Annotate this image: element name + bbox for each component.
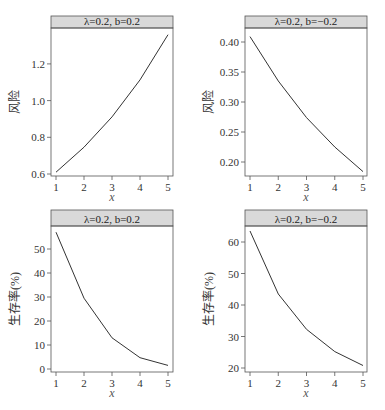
data-line	[56, 232, 168, 365]
panel-title: λ=0.2, b=0.2	[84, 213, 140, 225]
panel-title: λ=0.2, b=0.2	[84, 15, 140, 27]
y-tick-label: 0.35	[220, 66, 240, 78]
y-axis-label: 生存率(%)	[201, 272, 216, 326]
x-tick-label: 4	[137, 377, 143, 389]
y-tick-label: 10	[34, 339, 46, 351]
chart-grid: λ=0.2, b=0.20.60.81.01.212345x风险λ=0.2, b…	[0, 0, 385, 410]
x-tick-label: 2	[276, 377, 282, 389]
y-tick-label: 1.2	[31, 58, 45, 70]
plot-frame	[245, 28, 367, 176]
x-tick-label: 1	[247, 181, 253, 193]
y-tick-label: 0.6	[31, 168, 45, 180]
y-axis-label: 风险	[201, 90, 216, 114]
data-line	[250, 37, 363, 172]
x-tick-label: 5	[165, 377, 171, 389]
plot-frame	[51, 28, 173, 176]
x-tick-label: 2	[81, 377, 87, 389]
x-tick-label: 1	[247, 377, 253, 389]
y-tick-label: 60	[228, 236, 240, 248]
x-tick-label: 1	[53, 181, 59, 193]
y-tick-label: 1.0	[31, 95, 45, 107]
plot-frame	[51, 226, 173, 372]
y-tick-label: 40	[228, 299, 240, 311]
y-tick-label: 0.25	[220, 126, 240, 138]
x-tick-label: 2	[276, 181, 282, 193]
x-tick-label: 2	[81, 181, 87, 193]
y-tick-label: 20	[34, 315, 46, 327]
data-line	[56, 35, 168, 173]
x-axis-label: x	[108, 386, 115, 400]
y-tick-label: 20	[228, 362, 240, 374]
y-tick-label: 50	[228, 268, 240, 280]
x-tick-label: 5	[360, 377, 366, 389]
y-tick-label: 30	[228, 331, 240, 343]
x-tick-label: 5	[165, 181, 171, 193]
x-tick-label: 1	[53, 377, 59, 389]
x-tick-label: 4	[332, 181, 338, 193]
x-tick-label: 4	[137, 181, 143, 193]
panel-title: λ=0.2, b=−0.2	[275, 213, 337, 225]
x-tick-label: 5	[360, 181, 366, 193]
y-tick-label: 0	[40, 363, 46, 375]
y-tick-label: 0.40	[220, 36, 240, 48]
y-tick-label: 40	[34, 267, 46, 279]
y-tick-label: 30	[34, 291, 46, 303]
panel-title: λ=0.2, b=−0.2	[275, 15, 337, 27]
y-axis-label: 生存率(%)	[7, 272, 22, 326]
y-axis-label: 风险	[7, 90, 22, 114]
x-axis-label: x	[108, 190, 115, 204]
y-tick-label: 0.8	[31, 131, 45, 143]
y-tick-label: 0.30	[220, 96, 240, 108]
data-line	[250, 231, 363, 366]
x-axis-label: x	[302, 386, 309, 400]
y-tick-label: 0.20	[220, 156, 240, 168]
x-axis-label: x	[302, 190, 309, 204]
plot-frame	[245, 226, 367, 372]
y-tick-label: 50	[34, 243, 46, 255]
x-tick-label: 4	[332, 377, 338, 389]
